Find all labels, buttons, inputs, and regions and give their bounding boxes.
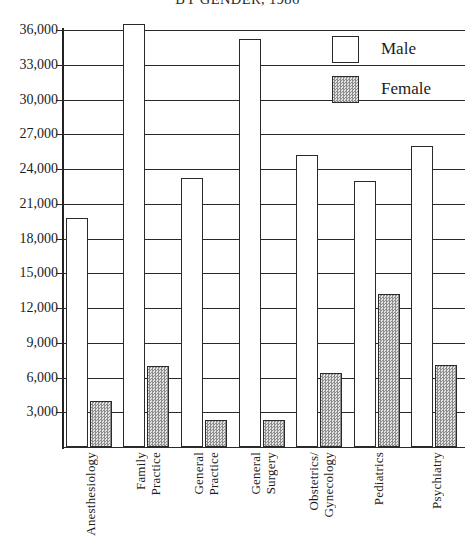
bar-male <box>411 146 433 447</box>
bar-female <box>435 365 457 447</box>
bar-female <box>263 420 285 447</box>
bar-male <box>181 178 203 447</box>
y-axis-tick <box>56 100 62 101</box>
legend-label-female: Female <box>381 79 431 99</box>
bar-female <box>205 420 227 447</box>
x-axis-category-labels: AnesthesiologyFamilyPracticeGeneralPract… <box>62 452 465 560</box>
x-axis-label-line: Psychiatry <box>429 452 444 509</box>
x-axis-category-label: FamilyPractice <box>120 452 178 560</box>
x-axis-category-label: GeneralSurgery <box>235 452 293 560</box>
y-axis-tick <box>56 30 62 31</box>
y-axis-tick <box>56 343 62 344</box>
bar-female <box>320 373 342 447</box>
y-axis-tick-label: 27,000 <box>2 127 58 141</box>
y-axis-tick-labels: 3,0006,0009,00012,00015,00018,00021,0002… <box>0 30 58 447</box>
y-axis-tick-label: 15,000 <box>2 266 58 280</box>
chart-title: BY GENDER, 1986 <box>0 0 475 8</box>
x-axis-label-line: Pediatrics <box>371 452 386 505</box>
y-axis-tick-label: 9,000 <box>2 336 58 350</box>
bar-male <box>296 155 318 447</box>
y-axis-tick-label: 24,000 <box>2 162 58 176</box>
legend-swatch-female <box>332 76 359 103</box>
y-axis-tick-label: 36,000 <box>2 23 58 37</box>
y-axis-tick <box>56 412 62 413</box>
y-axis-tick-label: 12,000 <box>2 301 58 315</box>
y-axis-tick <box>56 65 62 66</box>
x-axis-category-label: Pediatrics <box>350 452 408 560</box>
y-axis-tick <box>56 378 62 379</box>
y-axis-tick-label: 21,000 <box>2 197 58 211</box>
y-axis-tick <box>56 169 62 170</box>
bar-group <box>239 30 285 447</box>
y-axis-tick-label: 6,000 <box>2 371 58 385</box>
y-axis-tick-label: 3,000 <box>2 405 58 419</box>
legend-swatch-male <box>332 36 359 63</box>
chart-legend: MaleFemale <box>332 34 464 106</box>
x-axis-category-label: Psychiatry <box>407 452 465 560</box>
y-axis-tick-label: 18,000 <box>2 232 58 246</box>
x-axis-category-label: GeneralPractice <box>177 452 235 560</box>
y-axis-tick <box>56 134 62 135</box>
legend-item-female: Female <box>332 74 431 104</box>
bar-group <box>66 30 112 447</box>
bar-male <box>354 181 376 447</box>
y-axis-tick-label: 30,000 <box>2 93 58 107</box>
x-axis-label-line: Practice <box>148 452 163 495</box>
x-axis-label-line: Surgery <box>263 452 278 494</box>
y-axis-tick-label: 33,000 <box>2 58 58 72</box>
x-axis-label-line: Practice <box>206 452 221 495</box>
bar-group <box>181 30 227 447</box>
bar-male <box>123 24 145 447</box>
bar-female <box>378 294 400 447</box>
bar-group <box>123 30 169 447</box>
bar-male <box>66 218 88 447</box>
bar-male <box>239 39 261 447</box>
legend-item-male: Male <box>332 34 416 64</box>
x-axis-label-line: Gynecology <box>321 452 336 518</box>
x-axis-label-line: Obstetrics/ <box>306 452 321 511</box>
x-axis-label-line: General <box>191 452 206 495</box>
x-axis-category-label: Anesthesiology <box>62 452 120 560</box>
x-axis-category-label: Obstetrics/Gynecology <box>292 452 350 560</box>
bar-female <box>90 401 112 447</box>
y-axis-tick <box>56 273 62 274</box>
y-axis-tick <box>56 308 62 309</box>
x-axis-label-line: Anesthesiology <box>83 452 98 536</box>
bar-chart: BY GENDER, 1986 3,0006,0009,00012,00015,… <box>0 0 475 560</box>
y-axis-tick <box>56 239 62 240</box>
bar-female <box>147 366 169 447</box>
x-axis-baseline <box>62 447 465 448</box>
x-axis-label-line: Family <box>133 452 148 490</box>
x-axis-label-line: General <box>248 452 263 495</box>
legend-label-male: Male <box>381 39 416 59</box>
y-axis-tick <box>56 204 62 205</box>
